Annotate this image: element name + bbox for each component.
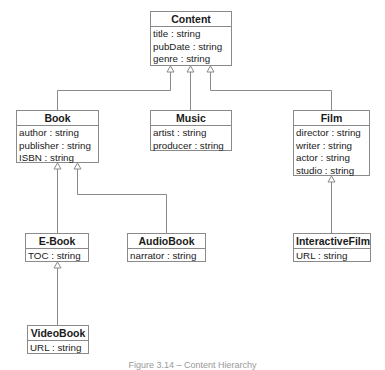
attribute: pubDate : string: [153, 41, 229, 54]
attribute: publisher : string: [19, 140, 96, 153]
class-name: E-Book: [26, 234, 88, 249]
class-interactivefilm: InteractiveFilm URL : string: [293, 233, 371, 262]
attribute: genre : string: [153, 53, 229, 66]
class-content: Content title : string pubDate : string …: [150, 11, 232, 66]
figure-caption: Figure 3.14 – Content Hierarchy: [0, 360, 385, 370]
attribute: director : string: [296, 127, 367, 140]
class-music: Music artist : string producer : string: [150, 110, 232, 151]
class-film: Film director : string writer : string a…: [293, 110, 370, 176]
class-name: Film: [294, 111, 369, 126]
attribute: TOC : string: [28, 250, 86, 263]
attribute: narrator : string: [130, 250, 203, 263]
class-name: Music: [151, 111, 231, 126]
attribute: writer : string: [296, 140, 367, 153]
attribute: URL : string: [296, 250, 368, 263]
attribute: actor : string: [296, 152, 367, 165]
class-videobook: VideoBook URL : string: [27, 325, 89, 354]
attribute: title : string: [153, 28, 229, 41]
attribute: studio : string: [296, 165, 367, 178]
class-book: Book author : string publisher : string …: [16, 110, 99, 163]
class-name: Content: [151, 12, 231, 27]
class-audiobook: AudioBook narrator : string: [127, 233, 206, 262]
attribute: producer : string: [153, 140, 229, 153]
class-name: InteractiveFilm: [294, 234, 370, 249]
class-name: Book: [17, 111, 98, 126]
class-ebook: E-Book TOC : string: [25, 233, 89, 262]
attribute: URL : string: [30, 342, 86, 355]
attribute: ISBN : string: [19, 152, 96, 165]
attribute: artist : string: [153, 127, 229, 140]
attribute: author : string: [19, 127, 96, 140]
class-name: AudioBook: [128, 234, 205, 249]
class-name: VideoBook: [28, 326, 88, 341]
